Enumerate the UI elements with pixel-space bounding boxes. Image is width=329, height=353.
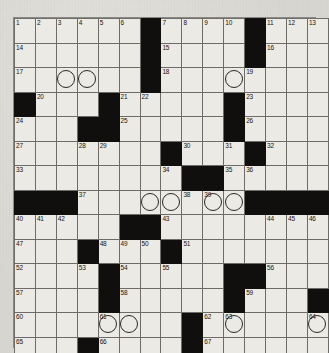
grid-cell[interactable] [56, 239, 77, 264]
grid-cell[interactable]: 3 [56, 19, 77, 44]
grid-cell[interactable] [286, 337, 307, 353]
grid-cell[interactable]: 26 [245, 117, 266, 142]
grid-cell[interactable] [266, 68, 287, 93]
grid-cell[interactable]: 4 [77, 19, 98, 44]
grid-cell[interactable] [182, 117, 203, 142]
grid-cell[interactable] [203, 288, 224, 313]
grid-cell[interactable] [182, 288, 203, 313]
grid-cell[interactable] [140, 288, 161, 313]
grid-cell[interactable]: 20 [35, 92, 56, 117]
grid-cell[interactable] [98, 215, 119, 240]
grid-circled-cell[interactable] [119, 313, 140, 338]
grid-cell[interactable] [224, 337, 245, 353]
grid-cell[interactable] [203, 239, 224, 264]
grid-cell[interactable] [56, 288, 77, 313]
grid-cell[interactable]: 43 [161, 215, 182, 240]
grid-cell[interactable]: 49 [119, 239, 140, 264]
grid-cell[interactable]: 41 [35, 215, 56, 240]
grid-cell[interactable]: 60 [15, 313, 36, 338]
grid-cell[interactable]: 6 [119, 19, 140, 44]
grid-cell[interactable]: 8 [182, 19, 203, 44]
grid-cell[interactable] [203, 92, 224, 117]
grid-cell[interactable] [286, 288, 307, 313]
grid-cell[interactable] [203, 43, 224, 68]
grid-circled-cell[interactable] [224, 190, 245, 215]
grid-cell[interactable] [203, 117, 224, 142]
grid-cell[interactable] [307, 117, 328, 142]
grid-cell[interactable] [307, 68, 328, 93]
grid-cell[interactable] [98, 43, 119, 68]
grid-circled-cell[interactable] [224, 68, 245, 93]
grid-cell[interactable]: 25 [119, 117, 140, 142]
grid-cell[interactable] [140, 313, 161, 338]
grid-cell[interactable] [98, 68, 119, 93]
grid-cell[interactable]: 62 [203, 313, 224, 338]
grid-cell[interactable]: 38 [182, 190, 203, 215]
grid-cell[interactable] [307, 337, 328, 353]
grid-cell[interactable] [245, 313, 266, 338]
grid-cell[interactable]: 46 [307, 215, 328, 240]
grid-cell[interactable] [77, 313, 98, 338]
grid-cell[interactable]: 36 [245, 166, 266, 191]
grid-cell[interactable] [35, 117, 56, 142]
grid-cell[interactable] [56, 337, 77, 353]
grid-cell[interactable] [56, 43, 77, 68]
grid-cell[interactable] [98, 190, 119, 215]
grid-cell[interactable] [182, 215, 203, 240]
grid-cell[interactable] [35, 141, 56, 166]
grid-circled-cell[interactable] [140, 190, 161, 215]
grid-cell[interactable] [203, 141, 224, 166]
grid-cell[interactable] [119, 337, 140, 353]
grid-cell[interactable]: 34 [161, 166, 182, 191]
grid-cell[interactable] [161, 92, 182, 117]
grid-cell[interactable] [35, 337, 56, 353]
grid-cell[interactable] [266, 92, 287, 117]
grid-cell[interactable] [182, 68, 203, 93]
grid-cell[interactable] [140, 337, 161, 353]
grid-cell[interactable]: 54 [119, 264, 140, 289]
grid-cell[interactable] [56, 117, 77, 142]
grid-cell[interactable] [77, 215, 98, 240]
grid-cell[interactable]: 9 [203, 19, 224, 44]
grid-cell[interactable]: 2 [35, 19, 56, 44]
crossword-grid-body[interactable]: 1234567891011121314151617181920212223242… [15, 19, 329, 353]
grid-cell[interactable]: 1 [15, 19, 36, 44]
grid-cell[interactable]: 51 [182, 239, 203, 264]
grid-circled-cell[interactable]: 63 [224, 313, 245, 338]
grid-cell[interactable] [98, 166, 119, 191]
grid-cell[interactable] [77, 92, 98, 117]
grid-cell[interactable]: 10 [224, 19, 245, 44]
grid-cell[interactable] [119, 68, 140, 93]
grid-cell[interactable]: 11 [266, 19, 287, 44]
crossword-grid-container[interactable]: 1234567891011121314151617181920212223242… [14, 18, 329, 353]
grid-cell[interactable] [140, 264, 161, 289]
grid-cell[interactable] [286, 92, 307, 117]
grid-cell[interactable] [286, 313, 307, 338]
grid-cell[interactable] [245, 239, 266, 264]
grid-cell[interactable] [77, 166, 98, 191]
grid-cell[interactable] [35, 43, 56, 68]
grid-cell[interactable]: 16 [266, 43, 287, 68]
grid-cell[interactable] [119, 43, 140, 68]
grid-circled-cell[interactable]: 61 [98, 313, 119, 338]
grid-cell[interactable] [56, 92, 77, 117]
grid-cell[interactable] [307, 264, 328, 289]
grid-cell[interactable] [245, 337, 266, 353]
grid-cell[interactable] [286, 141, 307, 166]
grid-cell[interactable] [266, 288, 287, 313]
grid-cell[interactable]: 33 [15, 166, 36, 191]
grid-cell[interactable] [35, 68, 56, 93]
grid-cell[interactable] [286, 117, 307, 142]
grid-cell[interactable] [35, 239, 56, 264]
grid-cell[interactable]: 17 [15, 68, 36, 93]
grid-cell[interactable] [119, 166, 140, 191]
grid-cell[interactable]: 24 [15, 117, 36, 142]
grid-cell[interactable] [182, 92, 203, 117]
grid-cell[interactable]: 23 [245, 92, 266, 117]
grid-cell[interactable] [35, 288, 56, 313]
grid-cell[interactable] [56, 141, 77, 166]
grid-cell[interactable] [182, 43, 203, 68]
grid-cell[interactable] [56, 313, 77, 338]
grid-cell[interactable]: 56 [266, 264, 287, 289]
grid-cell[interactable]: 12 [286, 19, 307, 44]
